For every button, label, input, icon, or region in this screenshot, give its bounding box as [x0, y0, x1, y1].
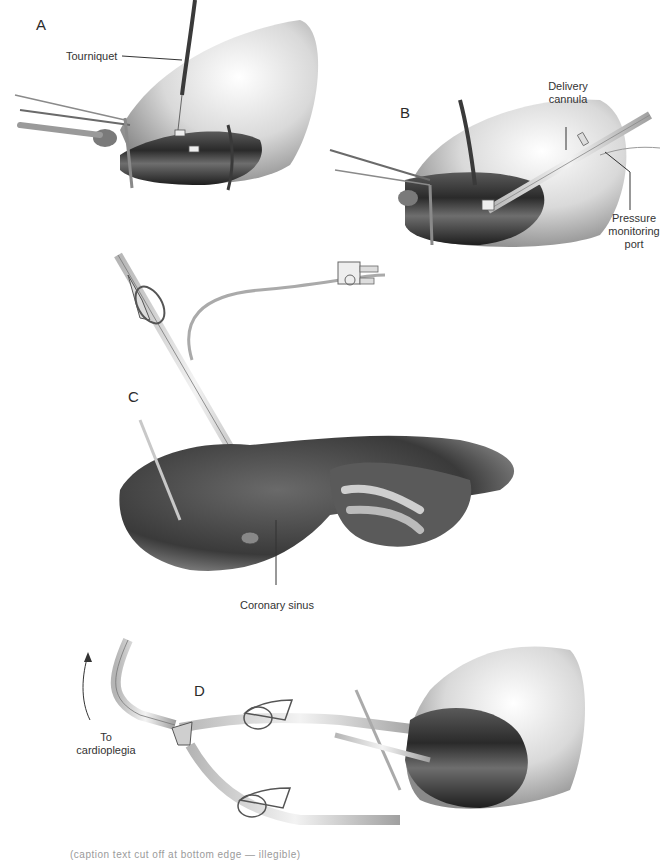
- label-delivery-cannula: Delivery cannula: [540, 80, 596, 106]
- label-tourniquet: Tourniquet: [66, 50, 117, 63]
- label-pressure-line2: monitoring: [604, 225, 664, 238]
- panel-letter-c: C: [128, 388, 139, 405]
- panel-c-art: [118, 255, 514, 585]
- label-to-cardioplegia: To cardioplegia: [76, 731, 136, 757]
- panel-letter-a: A: [36, 16, 46, 33]
- label-delivery-line1: Delivery: [540, 80, 596, 93]
- figure-caption: (caption text cut off at bottom edge — i…: [70, 849, 630, 861]
- label-to-line2: cardioplegia: [76, 744, 136, 757]
- panel-letter-d: D: [194, 682, 205, 699]
- surgical-figure: A B C D Tourniquet Delivery cannula Pres…: [0, 0, 672, 861]
- label-to-line1: To: [76, 731, 136, 744]
- panel-a-art: [15, 0, 318, 190]
- label-coronary-sinus: Coronary sinus: [240, 599, 314, 612]
- panel-d-art: [83, 640, 585, 820]
- label-pressure-line3: port: [604, 238, 664, 251]
- label-pressure-monitoring-port: Pressure monitoring port: [604, 212, 664, 251]
- panel-letter-b: B: [400, 104, 410, 121]
- label-pressure-line1: Pressure: [604, 212, 664, 225]
- label-delivery-line2: cannula: [540, 93, 596, 106]
